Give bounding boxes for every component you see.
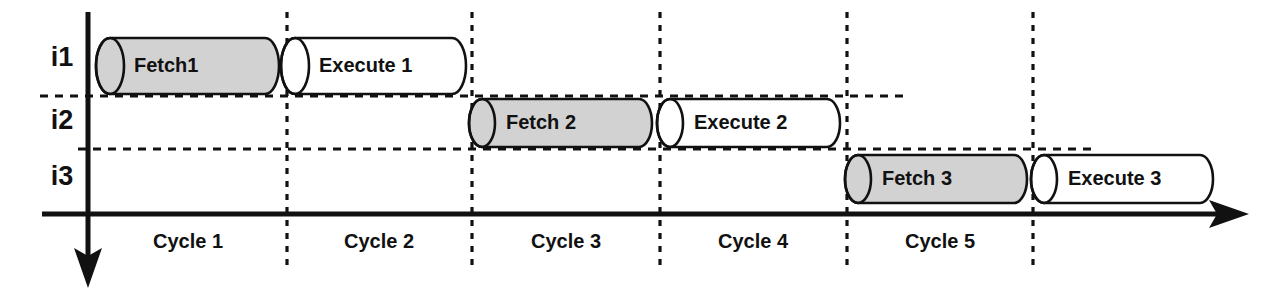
stage-execute-1-label: Execute 1: [319, 54, 412, 76]
cycle-label-4: Cycle 4: [718, 230, 789, 252]
stage-execute-3-label: Execute 3: [1068, 167, 1161, 189]
row-labels: i1 i2 i3: [51, 42, 74, 191]
cycle-label-2: Cycle 2: [344, 230, 414, 252]
stage-fetch-3: Fetch 3: [845, 155, 1027, 203]
stage-fetch-3-label: Fetch 3: [882, 167, 952, 189]
cycle-label-1: Cycle 1: [153, 230, 223, 252]
row-label-i1: i1: [51, 42, 74, 72]
stage-fetch-1: Fetch1: [96, 38, 279, 94]
row-label-i3: i3: [51, 161, 74, 191]
stage-fetch-2: Fetch 2: [469, 99, 652, 147]
stage-fetch-1-label: Fetch1: [134, 54, 198, 76]
cycle-labels: Cycle 1 Cycle 2 Cycle 3 Cycle 4 Cycle 5: [153, 230, 975, 252]
diagram-canvas: i1 i2 i3 Fetch1 Execute 1 Fetch 2 Execu: [0, 0, 1268, 299]
cycle-label-5: Cycle 5: [905, 230, 975, 252]
stage-fetch-2-label: Fetch 2: [506, 111, 576, 133]
stage-execute-3: Execute 3: [1031, 155, 1213, 203]
pipeline-timing-diagram: i1 i2 i3 Fetch1 Execute 1 Fetch 2 Execu: [0, 0, 1268, 299]
stage-execute-2-label: Execute 2: [694, 111, 787, 133]
stage-execute-1: Execute 1: [281, 38, 466, 94]
stage-execute-2: Execute 2: [657, 99, 840, 147]
row-label-i2: i2: [51, 105, 74, 135]
cycle-label-3: Cycle 3: [531, 230, 601, 252]
